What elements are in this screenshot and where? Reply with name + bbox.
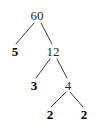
- tree-edge-n12-n3: [36, 59, 50, 78]
- tree-node-prime-2-left: 2: [47, 108, 54, 121]
- tree-edge-n4-n2b: [70, 92, 83, 107]
- tree-node-12: 12: [47, 45, 60, 58]
- tree-edge-n60-n12: [41, 23, 52, 44]
- tree-node-prime-2-right: 2: [81, 108, 88, 121]
- tree-edge-n60-n5: [16, 23, 34, 44]
- tree-node-prime-3: 3: [31, 79, 38, 92]
- tree-edge-n4-n2a: [51, 92, 66, 107]
- tree-edge-n12-n4: [57, 59, 67, 78]
- tree-node-root-60: 60: [31, 9, 44, 22]
- tree-node-4: 4: [65, 79, 72, 92]
- factor-tree-diagram: 60 5 12 3 4 2 2: [0, 0, 103, 126]
- tree-node-prime-5: 5: [12, 45, 19, 58]
